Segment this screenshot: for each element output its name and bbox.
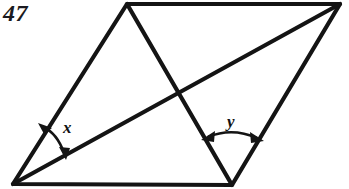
diagonal-bottom-left-to-top-right <box>13 4 340 184</box>
angle-y-arc <box>208 132 257 138</box>
angle-y-marker <box>201 131 264 143</box>
angle-label-x: x <box>63 119 72 136</box>
problem-number: 47 <box>3 0 28 28</box>
geometry-figure: 47 x y <box>0 0 349 189</box>
angle-label-y: y <box>227 113 235 130</box>
figure-canvas <box>0 0 349 189</box>
